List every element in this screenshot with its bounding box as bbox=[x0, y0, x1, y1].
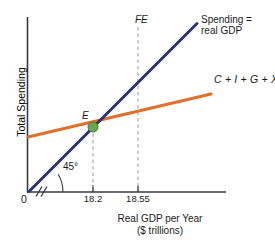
y-axis-title: Total Spending bbox=[15, 54, 27, 150]
y-axis-title-text: Total Spending bbox=[15, 67, 27, 136]
x-tick-label-18-55: 18.55 bbox=[116, 194, 160, 205]
series-label-spending-line1: Spending = bbox=[201, 14, 252, 25]
angle-label: 45° bbox=[63, 161, 78, 172]
series-label-spending-line2: real GDP bbox=[201, 25, 242, 36]
x-axis-title-units: ($ trillions) bbox=[96, 225, 224, 236]
chart-plot-area bbox=[0, 0, 275, 245]
axis-origin-label: 0 bbox=[21, 194, 27, 206]
angle-arc-icon bbox=[58, 174, 63, 192]
series-line-spending bbox=[30, 24, 198, 192]
equilibrium-point-label: E bbox=[82, 110, 89, 121]
series-label-cigx: C + I + G + X bbox=[214, 74, 275, 86]
full-employment-label: FE bbox=[135, 14, 148, 25]
series-label-spending: Spending = real GDP bbox=[201, 14, 252, 36]
x-axis-title: Real GDP per Year bbox=[96, 213, 224, 224]
equilibrium-point-marker bbox=[88, 122, 98, 132]
x-tick-label-18-2: 18.2 bbox=[72, 194, 114, 205]
chart-figure: Total Spending 0 18.2 18.55 Real GDP per… bbox=[0, 0, 275, 245]
